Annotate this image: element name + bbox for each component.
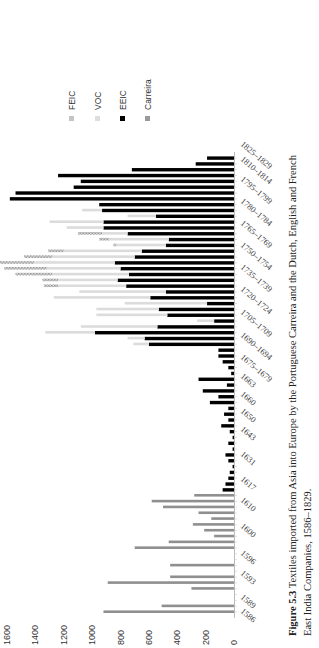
- bar-eeic: [228, 442, 234, 445]
- value-tick-label: 0: [229, 640, 239, 645]
- bar-eeic: [135, 255, 234, 258]
- bar-voc: [45, 331, 95, 334]
- bar-carreira: [214, 535, 234, 538]
- bar-eeic: [230, 471, 234, 474]
- legend: FEICVOCEEICCarreira: [67, 79, 153, 121]
- bar-eeic: [103, 226, 234, 229]
- bar-eeic: [128, 232, 234, 235]
- bar-eeic: [159, 308, 234, 311]
- bar-eeic: [81, 180, 234, 183]
- bar-eeic: [156, 215, 234, 218]
- bar-eeic: [10, 197, 234, 200]
- bar-eeic: [157, 325, 234, 328]
- legend-swatch-carreira: [145, 116, 150, 121]
- bar-voc: [54, 296, 150, 299]
- bar-carreira: [163, 506, 234, 509]
- bar-eeic: [230, 430, 234, 433]
- bar-eeic: [121, 267, 235, 270]
- bar-eeic: [126, 284, 234, 287]
- bar-carreira: [204, 529, 234, 532]
- bar-carreira: [169, 541, 234, 544]
- bar-voc: [102, 232, 128, 235]
- bar-series-group: [0, 156, 237, 613]
- bar-voc: [133, 343, 149, 346]
- bar-feic: [44, 284, 58, 287]
- bar-eeic: [218, 348, 234, 351]
- value-tick-label: 1200: [59, 625, 69, 645]
- value-tick-label: 400: [172, 630, 182, 645]
- bar-voc: [52, 273, 129, 276]
- bar-carreira: [191, 587, 234, 590]
- bar-carreira: [193, 523, 234, 526]
- category-tick-label: 1663: [239, 371, 258, 390]
- value-tick-label: 600: [144, 630, 154, 645]
- legend-label-carreira: Carreira: [143, 79, 153, 110]
- category-tick-label: 1589: [239, 592, 258, 611]
- bar-eeic: [203, 389, 234, 392]
- bar-eeic: [225, 453, 234, 456]
- bar-eeic: [169, 238, 234, 241]
- bar-voc: [58, 284, 126, 287]
- bar-eeic: [228, 477, 234, 480]
- category-tick-label: 1650: [239, 406, 258, 425]
- bar-voc: [81, 325, 158, 328]
- bar-carreira: [135, 546, 234, 549]
- bar-voc: [34, 261, 115, 264]
- category-axis-ticks: 1586158915931596160016101617163116431650…: [239, 139, 275, 625]
- bar-eeic: [129, 273, 234, 276]
- bar-feic: [24, 255, 52, 258]
- caption-line-1: Figure 5.3 Textiles imported from Asia i…: [287, 154, 298, 636]
- legend-label-feic: FEIC: [67, 91, 77, 110]
- bar-eeic: [132, 168, 234, 171]
- legend-label-eeic: EEIC: [118, 90, 128, 110]
- category-tick-label: 1643: [239, 424, 258, 443]
- bar-voc: [67, 226, 104, 229]
- bar-eeic: [166, 244, 234, 247]
- bar-eeic: [199, 378, 234, 381]
- rotated-bar-chart: 02004006008001000120014001600 1586158915…: [0, 0, 319, 648]
- bar-voc: [128, 337, 145, 340]
- bar-voc: [109, 238, 169, 241]
- bar-eeic: [228, 418, 234, 421]
- bar-eeic: [166, 290, 234, 293]
- bar-eeic: [115, 261, 234, 264]
- bar-eeic: [103, 220, 234, 223]
- legend-swatch-voc: [95, 116, 100, 121]
- bar-voc: [50, 220, 104, 223]
- category-tick-label: 1660: [239, 389, 258, 408]
- bar-eeic: [228, 366, 234, 369]
- bar-feic: [113, 244, 116, 247]
- legend-swatch-feic: [69, 116, 74, 121]
- bar-carreira: [108, 581, 234, 584]
- bar-voc: [79, 290, 166, 293]
- figure-caption: Figure 5.3 Textiles imported from Asia i…: [287, 154, 313, 636]
- bar-eeic: [150, 296, 234, 299]
- bar-eeic: [102, 209, 234, 212]
- value-tick-label: 1000: [87, 625, 97, 645]
- bar-eeic: [95, 331, 234, 334]
- category-tick-label: 1631: [239, 449, 258, 468]
- bar-carreira: [194, 494, 234, 497]
- value-tick-label: 1600: [2, 625, 12, 645]
- bar-eeic: [74, 186, 234, 189]
- bar-eeic: [142, 250, 234, 253]
- bar-carreira: [103, 610, 234, 613]
- bar-carreira: [170, 575, 234, 578]
- bar-eeic: [224, 413, 234, 416]
- bar-eeic: [207, 156, 234, 159]
- bar-eeic: [214, 319, 234, 322]
- bar-voc: [96, 314, 167, 317]
- bar-eeic: [233, 465, 234, 468]
- bar-eeic: [99, 203, 234, 206]
- bar-feic: [4, 267, 47, 270]
- bar-eeic: [16, 191, 234, 194]
- bar-voc: [47, 267, 121, 270]
- bar-voc: [197, 319, 214, 322]
- bar-voc: [64, 250, 142, 253]
- bar-voc: [116, 244, 166, 247]
- value-tick-label: 1400: [30, 625, 40, 645]
- bar-feic: [42, 279, 58, 282]
- bar-voc: [58, 279, 118, 282]
- bar-voc: [52, 255, 134, 258]
- bar-eeic: [223, 488, 234, 491]
